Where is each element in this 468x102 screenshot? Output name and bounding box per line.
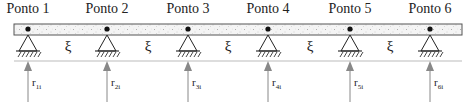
ground-hatch	[432, 52, 435, 57]
arrow-up-icon	[103, 61, 111, 71]
ground-hatch	[117, 52, 120, 57]
ground-hatch	[274, 52, 277, 57]
ground-hatch	[270, 52, 273, 57]
point-label-3: Ponto 3	[166, 1, 209, 17]
pin-support-icon	[341, 35, 359, 51]
pin-support-icon	[98, 35, 116, 51]
span-xi-symbol: ξ	[387, 38, 394, 55]
ground-hatch	[105, 52, 108, 57]
ground-hatch	[182, 52, 185, 57]
ground-hatch	[428, 52, 431, 57]
ground-hatch	[113, 52, 116, 57]
reaction-label-5: r5i	[354, 76, 363, 91]
span-xi-symbol: ξ	[65, 38, 72, 55]
ground-hatch	[190, 52, 193, 57]
reaction-label-3: r3i	[192, 76, 201, 91]
point-label-4: Ponto 4	[246, 1, 289, 17]
ground-hatch	[198, 52, 201, 57]
ground-hatch	[101, 52, 104, 57]
beam	[14, 24, 462, 35]
arrow-up-icon	[24, 61, 32, 71]
ground-hatch	[348, 52, 351, 57]
arrow-up-icon	[346, 61, 354, 71]
node-dot	[25, 26, 30, 31]
pin-support-icon	[19, 35, 37, 51]
point-label-6: Ponto 6	[408, 1, 451, 17]
pin-support-icon	[179, 35, 197, 51]
ground-hatch	[186, 52, 189, 57]
ground-hatch	[266, 52, 269, 57]
ground-hatch	[262, 52, 265, 57]
ground-hatch	[278, 52, 281, 57]
ground-hatch	[178, 52, 181, 57]
ground-hatch	[420, 52, 423, 57]
span-xi-symbol: ξ	[225, 38, 232, 55]
ground-hatch	[26, 52, 29, 57]
node-dot	[104, 26, 109, 31]
ground-hatch	[258, 52, 261, 57]
ground-hatch	[38, 52, 41, 57]
ground-hatch	[30, 52, 33, 57]
reaction-label-6: r6i	[434, 76, 443, 91]
span-xi-symbol: ξ	[307, 38, 314, 55]
ground-hatch	[340, 52, 343, 57]
pin-support-icon	[259, 35, 277, 51]
ground-hatch	[194, 52, 197, 57]
ground-hatch	[344, 52, 347, 57]
point-label-5: Ponto 5	[328, 1, 371, 17]
arrow-up-icon	[184, 61, 192, 71]
ground-hatch	[360, 52, 363, 57]
ground-hatch	[424, 52, 427, 57]
ground-hatch	[436, 52, 439, 57]
reaction-label-4: r4i	[272, 76, 281, 91]
ground-hatch	[352, 52, 355, 57]
node-dot	[265, 26, 270, 31]
arrow-up-icon	[426, 61, 434, 71]
ground-hatch	[22, 52, 25, 57]
span-xi-symbol: ξ	[145, 38, 152, 55]
point-label-1: Ponto 1	[6, 1, 49, 17]
arrow-up-icon	[264, 61, 272, 71]
ground-hatch	[109, 52, 112, 57]
ground-hatch	[34, 52, 37, 57]
node-dot	[427, 26, 432, 31]
ground-hatch	[356, 52, 359, 57]
ground-hatch	[97, 52, 100, 57]
node-dot	[185, 26, 190, 31]
point-label-2: Ponto 2	[85, 1, 128, 17]
ground-hatch	[18, 52, 21, 57]
ground-hatch	[440, 52, 443, 57]
reaction-label-1: r1i	[32, 76, 41, 91]
pin-support-icon	[421, 35, 439, 51]
reaction-label-2: r2i	[111, 76, 120, 91]
node-dot	[347, 26, 352, 31]
